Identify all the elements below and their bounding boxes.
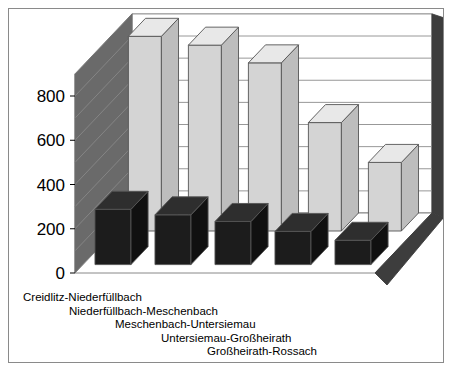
category-label-1: Niederfüllbach-Meschenbach xyxy=(69,305,218,317)
bar-front-2-front xyxy=(215,221,251,264)
bar-back-4-front xyxy=(368,162,401,231)
bar-back-2-side xyxy=(281,45,298,231)
bar-back-3 xyxy=(308,105,358,231)
category-label-0: Creidlitz-Niederfüllbach xyxy=(23,291,142,303)
chart-frame: 0200400600800Creidlitz-NiederfüllbachNie… xyxy=(8,8,444,363)
category-label-4: Großheirath-Rossach xyxy=(207,345,317,357)
y-axis-tick-label: 800 xyxy=(37,87,65,106)
bar-chart-3d: 0200400600800Creidlitz-NiederfüllbachNie… xyxy=(9,9,443,362)
y-axis: 0200400600800 xyxy=(37,74,75,283)
bar-front-2 xyxy=(215,203,268,264)
bar-back-3-side xyxy=(341,105,358,231)
y-axis-tick-label: 600 xyxy=(37,131,65,150)
bar-front-0 xyxy=(95,191,148,264)
bar-front-0-front xyxy=(95,209,131,264)
bar-front-1-front xyxy=(155,215,191,265)
bar-back-1-side xyxy=(221,27,238,231)
category-labels: Creidlitz-NiederfüllbachNiederfüllbach-M… xyxy=(23,291,317,357)
y-axis-tick-label: 200 xyxy=(37,220,65,239)
bar-front-4-front xyxy=(335,240,371,264)
y-axis-tick-label: 0 xyxy=(56,264,65,283)
y-axis-tick-label: 400 xyxy=(37,176,65,195)
category-label-2: Meschenbach-Untersiemau xyxy=(115,318,256,330)
category-label-3: Untersiemau-Großheirath xyxy=(161,332,291,344)
bar-front-1 xyxy=(155,197,208,265)
bar-front-3-front xyxy=(275,231,311,264)
bar-back-4 xyxy=(368,144,418,231)
right-wall-edge xyxy=(432,14,443,217)
